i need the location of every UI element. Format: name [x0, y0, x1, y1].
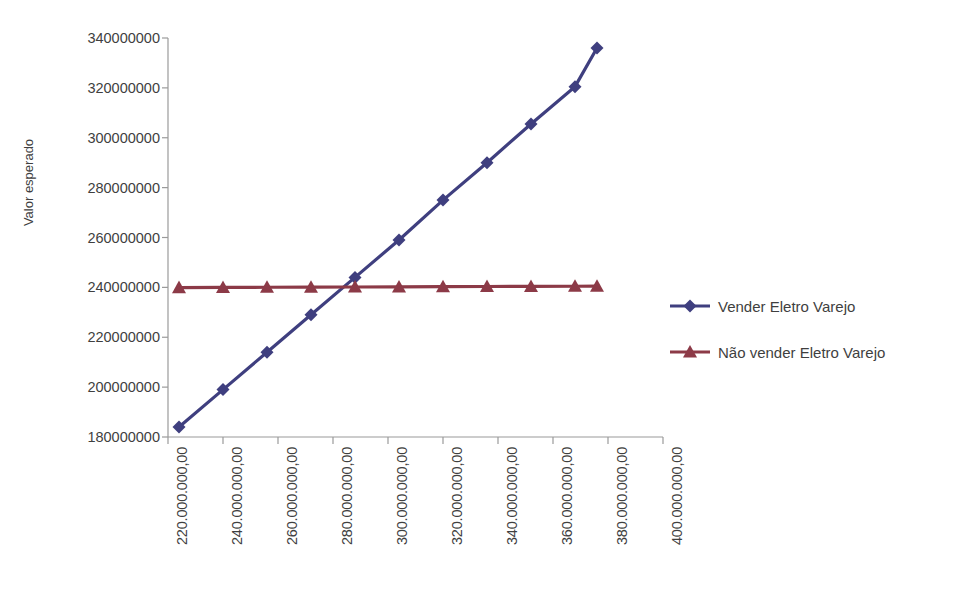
- chart-legend: Vender Eletro VarejoNão vender Eletro Va…: [668, 283, 958, 375]
- series-nao-vender: [172, 279, 604, 293]
- legend-label: Não vender Eletro Varejo: [712, 344, 885, 361]
- diamond-marker: [684, 300, 697, 313]
- diamond-marker: [591, 41, 604, 54]
- data-series: [172, 41, 604, 433]
- legend-swatch: [668, 295, 712, 317]
- axes: [162, 38, 663, 444]
- legend-label: Vender Eletro Varejo: [712, 298, 855, 315]
- chart-container: Valor esperado 3400000003200000003000000…: [0, 0, 960, 613]
- legend-item[interactable]: Vender Eletro Varejo: [668, 283, 958, 329]
- diamond-marker: [668, 295, 712, 317]
- triangle-marker: [668, 341, 712, 363]
- series-vender: [173, 41, 604, 433]
- series-line: [179, 48, 597, 427]
- legend-item[interactable]: Não vender Eletro Varejo: [668, 329, 958, 375]
- legend-swatch: [668, 341, 712, 363]
